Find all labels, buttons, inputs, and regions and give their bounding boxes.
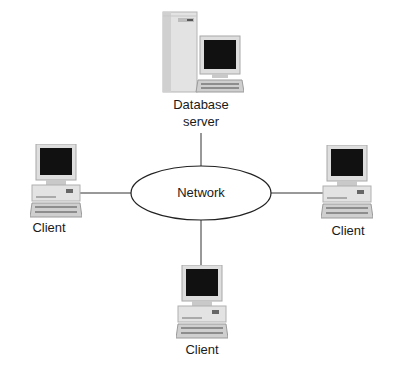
client-label-left: Client — [21, 219, 77, 236]
client-computer-icon — [176, 265, 228, 339]
database-server-label: Database server — [161, 96, 241, 130]
client-label-right: Client — [320, 222, 376, 239]
database-server-icon — [160, 10, 244, 94]
database-server-label-line1: Database — [161, 96, 241, 113]
network-label: Network — [166, 184, 236, 201]
network-diagram: Network Database server Client — [0, 0, 401, 369]
database-server-label-line2: server — [161, 113, 241, 130]
client-computer-icon — [30, 144, 82, 218]
client-label-bottom: Client — [174, 341, 230, 358]
client-computer-icon — [321, 145, 373, 219]
